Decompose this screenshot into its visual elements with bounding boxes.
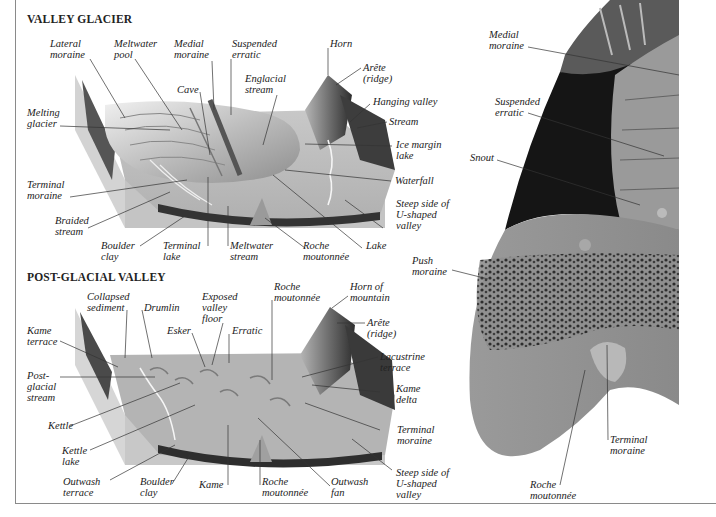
label-cave: Cave: [177, 84, 199, 95]
label-exposed-valley-floor: Exposed valley floor: [202, 291, 238, 324]
label-terminal-lake: Terminal lake: [163, 240, 201, 262]
label-medial-moraine: Medial moraine: [174, 38, 209, 60]
label-esker: Esker: [167, 325, 191, 336]
label-lateral-moraine: Lateral moraine: [50, 38, 85, 60]
label-snout-suspended-erratic: Suspended erratic: [495, 96, 540, 118]
label-kettle: Kettle: [48, 420, 73, 431]
valley-glacier-illustration: [75, 75, 395, 228]
label-hanging-valley: Hanging valley: [373, 96, 437, 107]
label-horn: Horn: [330, 38, 352, 49]
label-kettle-lake: Kettle lake: [62, 445, 87, 467]
label-kame: Kame: [199, 479, 224, 490]
label-boulder-clay-post: Boulder clay: [140, 476, 174, 498]
label-roche-moutonnee-top: Roche moutonnée: [274, 281, 320, 303]
label-snout-terminal-moraine: Terminal moraine: [610, 434, 648, 456]
label-kame-terrace: Kame terrace: [27, 325, 57, 347]
label-snout-medial-moraine: Medial moraine: [489, 29, 524, 51]
label-outwash-fan: Outwash fan: [331, 476, 368, 498]
label-erratic: Erratic: [232, 325, 262, 336]
label-terminal-moraine-post: Terminal moraine: [397, 424, 435, 446]
label-outwash-terrace: Outwash terrace: [63, 476, 100, 498]
label-stream: Stream: [389, 116, 418, 127]
label-kame-delta: Kame delta: [396, 383, 421, 405]
label-terminal-moraine: Terminal moraine: [27, 179, 65, 201]
label-horn-of-mountain: Horn of mountain: [350, 281, 390, 303]
label-steep-side-post: Steep side of U-shaped valley: [396, 467, 449, 500]
label-ice-margin-lake: Ice margin lake: [396, 139, 441, 161]
label-drumlin: Drumlin: [144, 302, 180, 313]
label-collapsed-sediment: Collapsed sediment: [87, 291, 130, 313]
label-boulder-clay: Boulder clay: [101, 240, 135, 262]
label-snout: Snout: [470, 152, 494, 163]
label-post-glacial-stream: Post- glacial stream: [27, 370, 56, 403]
label-meltwater-pool: Meltwater pool: [114, 38, 157, 60]
label-lacustrine-terrace: Lacustrine terrace: [380, 351, 425, 373]
label-push-moraine: Push moraine: [412, 255, 447, 277]
label-braided-stream: Braided stream: [55, 215, 89, 237]
label-meltwater-stream: Meltwater stream: [230, 240, 273, 262]
glacier-snout-illustration: [469, 0, 679, 456]
label-lake: Lake: [366, 240, 386, 251]
post-glacial-valley-heading: POST-GLACIAL VALLEY: [27, 271, 166, 283]
label-englacial-stream: Englacial stream: [245, 73, 286, 95]
label-suspended-erratic: Suspended erratic: [232, 38, 277, 60]
valley-glacier-heading: VALLEY GLACIER: [27, 13, 132, 25]
label-roche-moutonnee: Roche moutonnée: [303, 240, 349, 262]
label-waterfall: Waterfall: [395, 175, 434, 186]
label-arete-post: Arête (ridge): [367, 317, 396, 339]
label-roche-moutonnee-bottom: Roche moutonnée: [262, 476, 308, 498]
label-snout-roche-moutonnee: Roche moutonnée: [530, 479, 576, 501]
label-melting-glacier: Melting glacier: [27, 107, 60, 129]
label-steep-side: Steep side of U-shaped valley: [396, 198, 449, 231]
label-arete: Arête (ridge): [363, 62, 392, 84]
